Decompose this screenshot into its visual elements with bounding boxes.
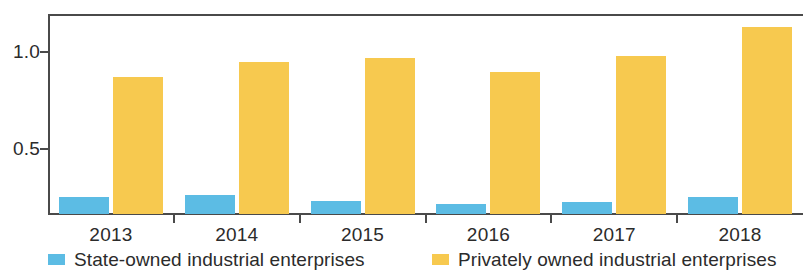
- legend-label-privately-owned: Privately owned industrial enterprises: [458, 249, 777, 270]
- x-axis-label-2017: 2017: [554, 225, 674, 245]
- x-axis-tick-2016: [425, 214, 427, 223]
- bar-state-owned-2016: [436, 204, 486, 214]
- x-axis-tick-2014: [173, 214, 175, 223]
- x-axis-label-2016: 2016: [428, 225, 548, 245]
- legend-item-state-owned[interactable]: State-owned industrial enterprises: [48, 249, 365, 270]
- legend-label-state-owned: State-owned industrial enterprises: [74, 249, 365, 270]
- bar-privately-owned-2018: [742, 27, 792, 214]
- x-axis-tick-2015: [299, 214, 301, 223]
- bar-state-owned-2013: [59, 197, 109, 214]
- bar-state-owned-2014: [185, 195, 235, 214]
- bar-state-owned-2018: [688, 197, 738, 214]
- x-axis-label-2018: 2018: [680, 225, 800, 245]
- bar-privately-owned-2015: [365, 58, 415, 214]
- bar-state-owned-2017: [562, 202, 612, 214]
- legend: State-owned industrial enterprises Priva…: [0, 246, 809, 275]
- chart-figure: 1.0 0.5 201320142015201620172018 State-o…: [0, 0, 809, 275]
- blue-swatch-icon: [48, 254, 65, 265]
- bar-privately-owned-2016: [490, 72, 540, 214]
- bar-state-owned-2015: [311, 201, 361, 214]
- x-axis-label-2015: 2015: [303, 225, 423, 245]
- x-axis-tick-2018: [676, 214, 678, 223]
- bar-privately-owned-2017: [616, 56, 666, 214]
- bar-privately-owned-2013: [113, 77, 163, 214]
- bar-group: [0, 0, 809, 214]
- bar-privately-owned-2014: [239, 62, 289, 214]
- x-axis-label-2013: 2013: [51, 225, 171, 245]
- x-axis-label-2014: 2014: [177, 225, 297, 245]
- x-axis-tick-2017: [550, 214, 552, 223]
- legend-item-privately-owned[interactable]: Privately owned industrial enterprises: [432, 249, 777, 270]
- yellow-swatch-icon: [432, 254, 449, 265]
